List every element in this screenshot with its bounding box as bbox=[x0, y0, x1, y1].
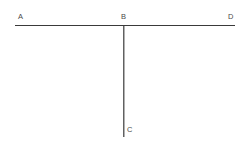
point-label-a: A bbox=[18, 13, 23, 21]
point-label-c: C bbox=[127, 126, 133, 134]
geometry-diagram: A B D C bbox=[0, 0, 248, 152]
point-label-d: D bbox=[228, 13, 234, 21]
diagram-svg bbox=[0, 0, 248, 152]
point-label-b: B bbox=[121, 13, 126, 21]
